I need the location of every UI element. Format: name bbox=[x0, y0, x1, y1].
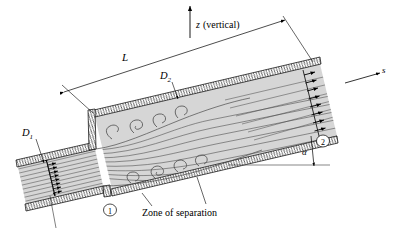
label-alpha: α bbox=[302, 147, 307, 157]
label-zone-of-separation: Zone of separation bbox=[142, 207, 217, 218]
expansion-step-upper bbox=[88, 109, 96, 150]
section-marker-1-text: 1 bbox=[108, 207, 112, 216]
section-marker-2-text: 2 bbox=[321, 138, 325, 147]
label-D1-subscript: 1 bbox=[30, 133, 34, 141]
section-marker-1: 1 bbox=[104, 204, 117, 216]
label-z-qualifier: (vertical) bbox=[203, 19, 240, 31]
label-L: L bbox=[121, 51, 128, 63]
label-s-axis: s bbox=[382, 65, 386, 75]
label-D2-subscript: 2 bbox=[168, 76, 172, 84]
section-marker-2: 2 bbox=[317, 135, 330, 147]
duct-expansion-diagram: L D1 D2 z(vertical) s α 1 2 bbox=[0, 0, 400, 230]
expansion-step-lower bbox=[103, 185, 111, 197]
